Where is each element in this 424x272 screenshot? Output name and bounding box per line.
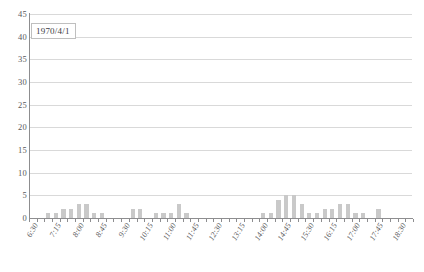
x-tick-label: 7:15 xyxy=(49,222,63,239)
bar xyxy=(361,213,365,218)
x-tick-mark xyxy=(229,219,230,222)
x-tick-mark xyxy=(244,219,245,222)
bar xyxy=(131,209,135,218)
x-tick-label: 11:00 xyxy=(162,222,178,242)
x-tick-label: 18:30 xyxy=(392,222,408,242)
bar xyxy=(346,204,350,218)
bar xyxy=(177,204,181,218)
x-tick-mark xyxy=(60,219,61,222)
bar xyxy=(315,213,319,218)
x-tick-label: 8:45 xyxy=(95,222,109,239)
bar xyxy=(276,200,280,218)
bar xyxy=(330,209,334,218)
x-tick-label: 14:00 xyxy=(254,222,270,242)
bar xyxy=(338,204,342,218)
date-annotation: 1970/4/1 xyxy=(31,23,76,39)
bar xyxy=(100,213,104,218)
bar xyxy=(77,204,81,218)
x-tick-mark xyxy=(37,219,38,222)
bar xyxy=(54,213,58,218)
x-tick-mark xyxy=(344,219,345,222)
bar xyxy=(376,209,380,218)
x-tick-mark xyxy=(29,219,30,222)
x-tick-mark xyxy=(252,219,253,222)
x-tick-mark xyxy=(44,219,45,222)
bar xyxy=(69,209,73,218)
y-tick-label: 40 xyxy=(3,33,27,42)
x-tick-label: 16:15 xyxy=(323,222,339,242)
x-tick-mark xyxy=(190,219,191,222)
x-tick-mark xyxy=(83,219,84,222)
x-tick-mark xyxy=(113,219,114,222)
x-tick-mark xyxy=(352,219,353,222)
x-tick-mark xyxy=(313,219,314,222)
y-tick-label: 45 xyxy=(3,10,27,19)
x-tick-mark xyxy=(305,219,306,222)
x-tick-mark xyxy=(206,219,207,222)
y-tick-label: 30 xyxy=(3,78,27,87)
y-tick-label: 15 xyxy=(3,146,27,155)
x-tick-mark xyxy=(298,219,299,222)
bar xyxy=(92,213,96,218)
bar xyxy=(269,213,273,218)
x-tick-mark xyxy=(144,219,145,222)
x-tick-label: 12:30 xyxy=(208,222,224,242)
x-tick-mark xyxy=(183,219,184,222)
x-tick-label: 13:15 xyxy=(231,222,247,242)
bar xyxy=(284,195,288,218)
x-tick-label: 11:45 xyxy=(185,222,201,242)
bar xyxy=(323,209,327,218)
x-tick-label: 8:00 xyxy=(72,222,86,239)
bar xyxy=(184,213,188,218)
x-tick-mark xyxy=(106,219,107,222)
y-tick-label: 0 xyxy=(3,214,27,223)
x-tick-label: 10:15 xyxy=(139,222,155,242)
x-tick-mark xyxy=(367,219,368,222)
bar xyxy=(169,213,173,218)
x-tick-mark xyxy=(329,219,330,222)
x-tick-mark xyxy=(75,219,76,222)
x-tick-mark xyxy=(398,219,399,222)
x-tick-mark xyxy=(129,219,130,222)
x-tick-label: 17:00 xyxy=(346,222,362,242)
x-tick-mark xyxy=(52,219,53,222)
x-tick-mark xyxy=(152,219,153,222)
bars-layer xyxy=(29,14,413,218)
bar xyxy=(84,204,88,218)
x-tick-label: 6:30 xyxy=(25,222,39,239)
x-tick-mark xyxy=(321,219,322,222)
x-tick-label: 14:45 xyxy=(277,222,293,242)
y-tick-label: 5 xyxy=(3,191,27,200)
x-tick-mark xyxy=(413,219,414,222)
x-tick-mark xyxy=(121,219,122,222)
x-tick-label: 9:30 xyxy=(118,222,132,239)
bar xyxy=(261,213,265,218)
bar-chart: 051015202530354045 6:307:158:008:459:301… xyxy=(0,0,424,272)
bar xyxy=(161,213,165,218)
x-tick-mark xyxy=(282,219,283,222)
bar xyxy=(138,209,142,218)
y-tick-label: 25 xyxy=(3,101,27,110)
y-tick-label: 35 xyxy=(3,55,27,64)
bar xyxy=(307,213,311,218)
x-tick-mark xyxy=(275,219,276,222)
x-tick-label: 17:45 xyxy=(369,222,385,242)
bar xyxy=(154,213,158,218)
x-tick-mark xyxy=(160,219,161,222)
y-tick-label: 20 xyxy=(3,123,27,132)
x-tick-mark xyxy=(267,219,268,222)
x-tick-label: 15:30 xyxy=(300,222,316,242)
x-tick-mark xyxy=(390,219,391,222)
x-tick-mark xyxy=(213,219,214,222)
bar xyxy=(300,204,304,218)
x-tick-mark xyxy=(259,219,260,222)
bar xyxy=(292,195,296,218)
x-tick-mark xyxy=(382,219,383,222)
x-tick-mark xyxy=(137,219,138,222)
x-tick-mark xyxy=(90,219,91,222)
x-tick-mark xyxy=(375,219,376,222)
x-tick-mark xyxy=(67,219,68,222)
y-tick-label: 10 xyxy=(3,169,27,178)
bar xyxy=(61,209,65,218)
y-axis-labels: 051015202530354045 xyxy=(0,0,27,272)
